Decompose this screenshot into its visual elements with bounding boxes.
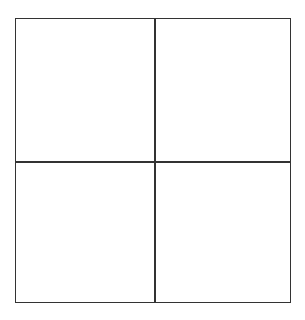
- grid-cell-top-right: [155, 19, 291, 161]
- grid-cell-bottom-left: [16, 162, 154, 301]
- grid-cell-bottom-right: [155, 162, 291, 301]
- two-by-two-grid: [15, 18, 291, 303]
- grid-cell-top-left: [16, 19, 154, 161]
- horizontal-divider: [16, 161, 290, 163]
